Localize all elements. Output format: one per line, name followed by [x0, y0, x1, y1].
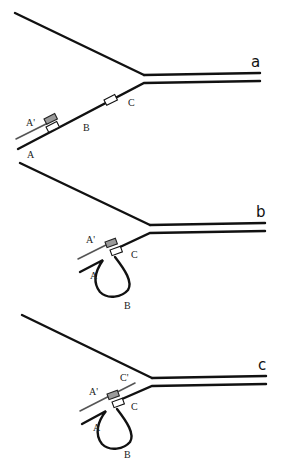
panel-c: A' C' A B C c — [22, 315, 266, 460]
label-c-prime: C' — [120, 372, 129, 383]
segment-c-box — [112, 398, 124, 407]
parental-duplex-top — [144, 73, 260, 75]
label-a: A — [93, 422, 101, 433]
label-a-prime: A' — [26, 117, 35, 128]
segment-c-box — [104, 95, 117, 106]
label-b: B — [124, 300, 131, 311]
panel-label-a: a — [251, 53, 260, 71]
panel-label-c: c — [258, 356, 266, 374]
upper-template-strand — [15, 13, 144, 75]
label-a-prime: A' — [86, 234, 95, 245]
segment-c-prime-box — [107, 390, 119, 399]
lower-template-strand — [122, 384, 266, 399]
label-b: B — [83, 122, 90, 133]
hairpin-loop-b — [80, 257, 130, 297]
label-c: C — [131, 249, 138, 260]
parental-duplex-top — [152, 376, 266, 378]
lower-template-strand — [120, 231, 265, 247]
label-b: B — [124, 449, 131, 460]
label-a: A — [27, 149, 35, 160]
label-a: A — [90, 270, 98, 281]
parental-duplex-top — [150, 223, 265, 225]
label-a-prime: A' — [89, 386, 98, 397]
nascent-strand — [78, 244, 108, 259]
panel-a: A' A B C a — [15, 13, 260, 160]
upper-template-strand — [22, 315, 152, 378]
panel-b: A' A B C b — [20, 163, 266, 311]
label-c: C — [131, 401, 138, 412]
label-c: C — [128, 97, 135, 108]
segment-c-box — [110, 246, 122, 255]
replication-fork-diagram: A' A B C a A' A B C b A' C' A B C c — [0, 0, 281, 470]
segment-a-prime-box — [105, 238, 117, 247]
panel-label-b: b — [256, 203, 266, 221]
hairpin-loop-c — [82, 409, 132, 449]
upper-template-strand — [20, 163, 150, 225]
